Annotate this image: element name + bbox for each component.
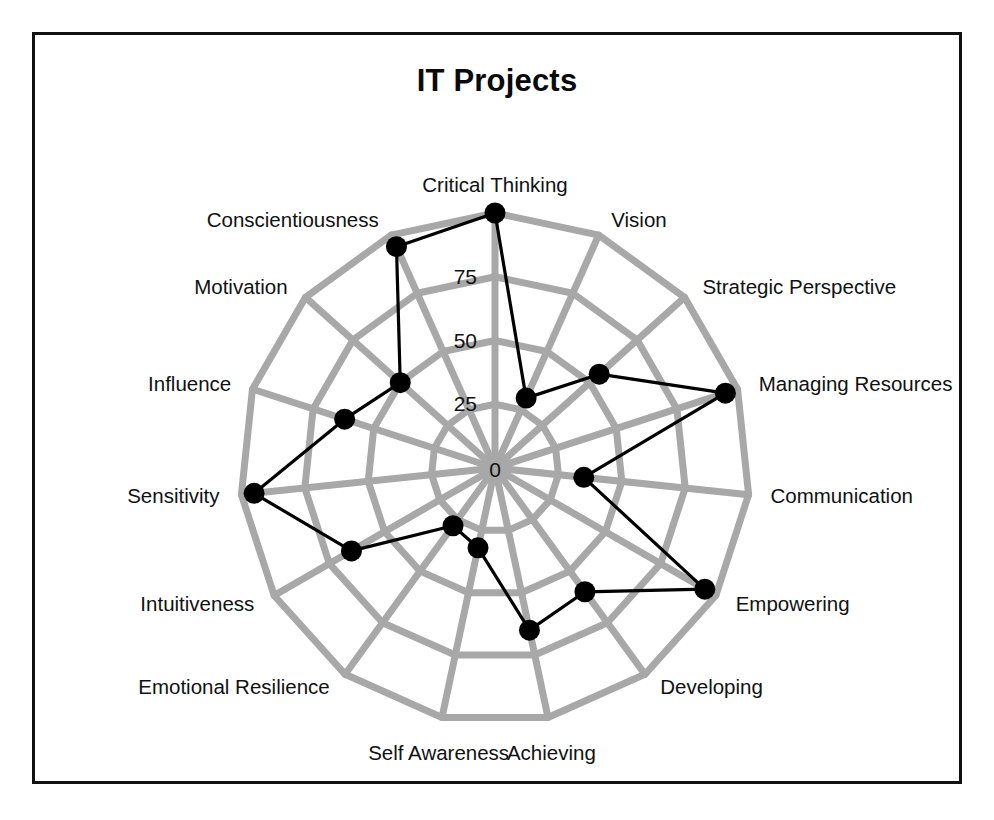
axis-label-developing: Developing bbox=[660, 675, 763, 698]
radial-tick-0: 0 bbox=[489, 458, 501, 481]
axis-label-motivation: Motivation bbox=[194, 275, 287, 298]
radial-tick-75: 75 bbox=[454, 265, 477, 288]
axis-label-vision: Vision bbox=[611, 208, 666, 231]
axis-label-achieving: Achieving bbox=[507, 741, 596, 764]
axis-label-conscientiousness: Conscientiousness bbox=[207, 208, 379, 231]
axis-label-communication: Communication bbox=[771, 484, 913, 507]
axis-label-self-awareness: Self Awareness bbox=[368, 741, 509, 764]
radar-markers bbox=[244, 203, 736, 641]
axis-label-critical-thinking: Critical Thinking bbox=[422, 173, 567, 196]
axis-label-emotional-resilience: Emotional Resilience bbox=[138, 675, 329, 698]
radial-tick-25: 25 bbox=[454, 392, 477, 415]
axis-label-empowering: Empowering bbox=[736, 592, 850, 615]
chart-frame: IT Projects 0255075 Critical ThinkingVis… bbox=[32, 32, 962, 784]
axis-label-sensitivity: Sensitivity bbox=[127, 484, 220, 507]
radar-chart: 0255075 Critical ThinkingVisionStrategic… bbox=[35, 35, 959, 781]
axis-label-influence: Influence bbox=[148, 372, 231, 395]
radial-tick-50: 50 bbox=[454, 329, 477, 352]
axis-label-intuitiveness: Intuitiveness bbox=[140, 592, 254, 615]
axis-label-strategic-perspective: Strategic Perspective bbox=[702, 275, 896, 298]
axis-label-managing-resources: Managing Resources bbox=[759, 372, 953, 395]
